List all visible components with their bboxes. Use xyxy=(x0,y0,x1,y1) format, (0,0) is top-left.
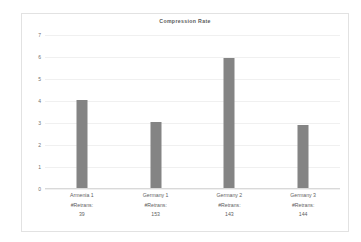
plot-area: 01234567 xyxy=(45,35,340,189)
y-axis-tick-label: 3 xyxy=(38,120,41,126)
y-axis-tick-label: 4 xyxy=(38,98,41,104)
category-sublabel: #Retrans: xyxy=(119,201,193,211)
gridline: 0 xyxy=(45,189,340,190)
bar[interactable] xyxy=(76,100,87,189)
retransmission-count: 144 xyxy=(266,210,340,220)
bar[interactable] xyxy=(298,125,309,189)
y-axis-tick-label: 1 xyxy=(38,164,41,170)
y-axis-tick-label: 2 xyxy=(38,142,41,148)
category-sublabel: #Retrans: xyxy=(266,201,340,211)
category-label: Germany 2#Retrans:143 xyxy=(193,191,267,220)
chart-container: Compression Rate 01234567 Armenia 1#Retr… xyxy=(21,13,349,232)
category-sublabel: #Retrans: xyxy=(193,201,267,211)
bar[interactable] xyxy=(150,122,161,189)
retransmission-count: 39 xyxy=(45,210,119,220)
retransmission-count: 153 xyxy=(119,210,193,220)
category-name: Armenia 1 xyxy=(45,191,119,201)
bar[interactable] xyxy=(224,58,235,189)
category-sublabel: #Retrans: xyxy=(45,201,119,211)
x-axis-line xyxy=(45,188,340,189)
y-axis-tick-label: 5 xyxy=(38,76,41,82)
category-name: Germany 3 xyxy=(266,191,340,201)
bar-slot xyxy=(45,35,119,189)
retransmission-count: 143 xyxy=(193,210,267,220)
category-name: Germany 2 xyxy=(193,191,267,201)
category-axis: Armenia 1#Retrans:39Germany 1#Retrans:15… xyxy=(45,191,340,229)
bar-slot xyxy=(266,35,340,189)
y-axis-tick-label: 0 xyxy=(38,186,41,192)
category-name: Germany 1 xyxy=(119,191,193,201)
category-label: Germany 3#Retrans:144 xyxy=(266,191,340,220)
bar-slot xyxy=(193,35,267,189)
category-label: Germany 1#Retrans:153 xyxy=(119,191,193,220)
bar-slot xyxy=(119,35,193,189)
y-axis-tick-label: 6 xyxy=(38,54,41,60)
category-label: Armenia 1#Retrans:39 xyxy=(45,191,119,220)
y-axis-tick-label: 7 xyxy=(38,32,41,38)
chart-title: Compression Rate xyxy=(22,18,348,24)
